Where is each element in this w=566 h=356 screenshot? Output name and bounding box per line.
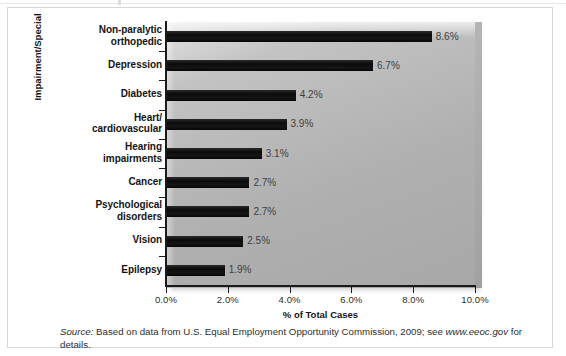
x-axis-tick-label: 4.0% xyxy=(260,294,320,305)
x-axis-tick xyxy=(475,287,476,293)
category-label-line: Epilepsy xyxy=(12,264,162,276)
bar[interactable] xyxy=(166,90,296,101)
x-axis-line xyxy=(165,285,476,287)
x-axis-tick-label: 2.0% xyxy=(198,294,258,305)
category-label-line: cardiovascular xyxy=(12,123,162,135)
category-label-line: Cancer xyxy=(12,176,162,188)
bar[interactable] xyxy=(166,177,249,188)
x-axis-tick-label: 6.0% xyxy=(321,294,381,305)
x-axis-tick-label: 8.0% xyxy=(383,294,443,305)
bar[interactable] xyxy=(166,31,432,42)
source-note-label: Source: xyxy=(60,326,93,337)
category-label-line: disorders xyxy=(12,211,162,223)
category-label: Hearingimpairments xyxy=(12,141,162,164)
bar[interactable] xyxy=(166,148,262,159)
bar-value-label: 8.6% xyxy=(436,30,459,43)
category-label: Epilepsy xyxy=(12,264,162,276)
bar-value-label: 3.9% xyxy=(291,117,314,130)
bar[interactable] xyxy=(166,206,249,217)
bar-value-label: 4.2% xyxy=(300,88,323,101)
x-axis-tick xyxy=(228,287,229,293)
x-axis-tick-label: 10.0% xyxy=(445,294,505,305)
x-axis-tick xyxy=(413,287,414,293)
bar[interactable] xyxy=(166,119,287,130)
y-axis-line xyxy=(165,21,167,287)
bar-value-label: 2.5% xyxy=(247,234,270,247)
bar-value-label: 1.9% xyxy=(229,263,252,276)
x-axis-tick xyxy=(351,287,352,293)
category-label: Cancer xyxy=(12,176,162,188)
bar[interactable] xyxy=(166,236,243,247)
source-note-text-before: Based on data from U.S. Equal Employment… xyxy=(93,326,445,337)
bar-value-label: 3.1% xyxy=(266,147,289,160)
category-label: Vision xyxy=(12,234,162,246)
category-label-line: Psychological xyxy=(12,199,162,211)
category-label-line: Vision xyxy=(12,234,162,246)
bar[interactable] xyxy=(166,265,225,276)
x-axis-tick xyxy=(166,287,167,293)
category-label-line: Hearing xyxy=(12,141,162,153)
x-axis-tick xyxy=(290,287,291,293)
bar-chart: 0.0%2.0%4.0%6.0%8.0%10.0% Non-paralytico… xyxy=(0,0,566,356)
source-note-url[interactable]: www.eeoc.gov xyxy=(446,326,508,337)
bar[interactable] xyxy=(166,60,373,71)
bar-value-label: 2.7% xyxy=(253,205,276,218)
bar-value-label: 2.7% xyxy=(253,176,276,189)
plot-area xyxy=(166,22,475,285)
category-label: Psychologicaldisorders xyxy=(12,199,162,222)
y-axis-title: Impairment/Special xyxy=(32,0,46,117)
bar-value-label: 6.7% xyxy=(377,59,400,72)
x-axis-title: % of Total Cases xyxy=(166,309,475,320)
category-label-line: impairments xyxy=(12,153,162,165)
source-note: Source: Based on data from U.S. Equal Em… xyxy=(60,325,540,351)
